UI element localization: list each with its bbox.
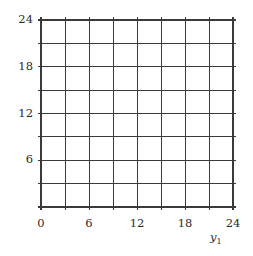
- x-tick-label: 18: [178, 218, 193, 230]
- x-tick-label: 6: [85, 218, 92, 230]
- x-axis-label-subscript: 1: [217, 237, 222, 246]
- x-tick-label: 0: [37, 218, 44, 230]
- x-axis-tick-labels: 06121824: [0, 0, 253, 256]
- x-axis-label: y1: [210, 232, 222, 246]
- chart-figure: 2418126 06121824 y1: [0, 0, 253, 256]
- x-tick-label: 24: [226, 218, 241, 230]
- x-tick-label: 12: [130, 218, 145, 230]
